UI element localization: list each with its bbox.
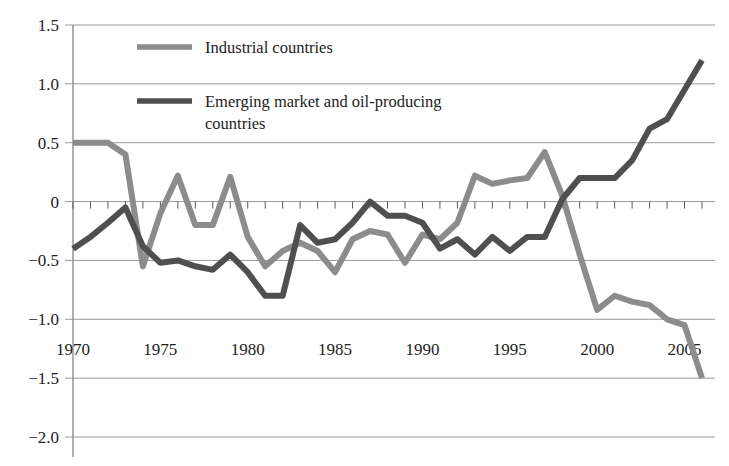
y-tick-label: 1.5 bbox=[38, 16, 59, 35]
y-tick-label: 0.5 bbox=[38, 134, 59, 153]
line-chart: 1.51.00.50−0.5−1.0−1.5−2.0 1970197519801… bbox=[0, 0, 729, 466]
x-tick-label: 1975 bbox=[143, 340, 177, 359]
y-tick-label: −2.0 bbox=[28, 428, 59, 447]
caption-sliver bbox=[0, 458, 729, 466]
x-tick-label: 1985 bbox=[318, 340, 352, 359]
y-tick-label: 0 bbox=[51, 193, 60, 212]
x-tick-label: 2000 bbox=[580, 340, 614, 359]
legend-label: Emerging market and oil-producing bbox=[205, 92, 442, 111]
x-tick-label: 1970 bbox=[56, 340, 90, 359]
x-tick-label: 1995 bbox=[493, 340, 527, 359]
y-tick-label: −1.0 bbox=[28, 310, 59, 329]
y-tick-label: −0.5 bbox=[28, 251, 59, 270]
legend-label: Industrial countries bbox=[205, 38, 333, 57]
y-tick-label: 1.0 bbox=[38, 75, 59, 94]
x-tick-label: 1990 bbox=[405, 340, 439, 359]
x-tick-label: 1980 bbox=[231, 340, 265, 359]
legend-label: countries bbox=[205, 114, 265, 133]
chart-container: 1.51.00.50−0.5−1.0−1.5−2.0 1970197519801… bbox=[0, 0, 729, 466]
y-tick-label: −1.5 bbox=[28, 369, 59, 388]
